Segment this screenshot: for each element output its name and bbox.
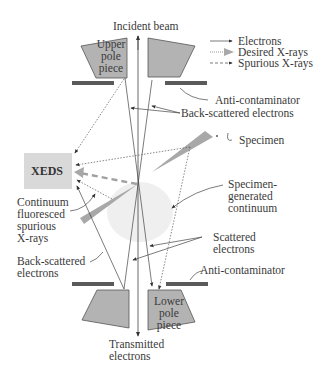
transmitted-text-1: Transmitted [109, 338, 164, 350]
anti-contaminator-lower-right [166, 282, 208, 286]
lower-pole-text-1: Lower [150, 295, 188, 307]
label-xeds: XEDS [31, 165, 63, 177]
cont-text-4: X-rays [17, 232, 69, 244]
upper-pole-text-1: Upper [93, 38, 129, 50]
cont-text-2: fluoresced [17, 208, 69, 220]
spec-gen-text-2: generated [228, 190, 277, 202]
bs-left-text-1: Back-scattered [17, 255, 85, 267]
label-anti-contaminator-top: Anti-contaminator [215, 94, 300, 106]
lower-pole-piece-left [82, 290, 129, 328]
label-backscattered-top: Back-scattered electrons [181, 107, 294, 119]
scattered-text-2: electrons [213, 243, 256, 255]
upper-pole-text-3: piece [93, 62, 129, 74]
cont-text-1: Continuum [17, 196, 69, 208]
upper-pole-piece-right [148, 38, 195, 77]
diagram-canvas: Incident beam Upper pole piece Electrons… [0, 0, 327, 371]
lower-pole-text-3: piece [150, 319, 188, 331]
legend-spurious-xrays: Spurious X-rays [238, 57, 313, 69]
label-specimen-generated-continuum: Specimen- generated continuum [228, 178, 277, 214]
label-upper-pole-piece: Upper pole piece [93, 38, 129, 74]
spec-gen-text-1: Specimen- [228, 178, 277, 190]
anti-contaminator-lower-left [72, 282, 114, 286]
label-specimen: Specimen [239, 134, 284, 146]
label-backscattered-left: Back-scattered electrons [17, 255, 85, 279]
spurious-xray-dashed [80, 173, 137, 184]
upper-pole-text-2: pole [93, 50, 129, 62]
label-incident-beam: Incident beam [113, 20, 178, 32]
anti-contaminator-upper-left [72, 81, 114, 85]
anti-contaminator-upper-right [165, 81, 207, 85]
spec-gen-text-3: continuum [228, 202, 277, 214]
lower-pole-text-2: pole [150, 307, 188, 319]
label-lower-pole-piece: Lower pole piece [150, 295, 188, 331]
cont-text-3: spurious [17, 220, 69, 232]
specimen-dot [216, 135, 218, 137]
label-scattered-electrons: Scattered electrons [213, 231, 256, 255]
label-anti-contaminator-bottom: Anti-contaminator [200, 264, 285, 276]
specimen-upper [152, 131, 213, 172]
label-transmitted-electrons: Transmitted electrons [109, 338, 164, 362]
transmitted-text-2: electrons [109, 350, 164, 362]
label-continuum-fluoresced: Continuum fluoresced spurious X-rays [17, 196, 69, 244]
bs-left-text-2: electrons [17, 267, 85, 279]
scattered-text-1: Scattered [213, 231, 256, 243]
